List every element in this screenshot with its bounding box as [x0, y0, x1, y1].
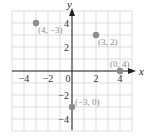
data-points: (4, −3)(3, 2)(0, 4)(−3, 0) [33, 20, 130, 110]
y-tick-label: −4 [58, 114, 69, 125]
x-tick-label: 2 [94, 73, 99, 84]
data-point: (0, 4) [110, 59, 130, 74]
point-label: (4, −3) [38, 25, 63, 35]
data-point: (3, 2) [93, 32, 118, 47]
point-label: (0, 4) [110, 59, 130, 69]
x-tick-label: 0 [66, 73, 71, 84]
x-axis-label: x [138, 65, 144, 77]
coordinate-plane: x y −4−202442−2−4 (4, −3)(3, 2)(0, 4)(−3… [0, 0, 148, 140]
point-label: (3, 2) [98, 37, 118, 47]
y-axis-label: y [66, 0, 72, 10]
y-tick-label: −2 [58, 90, 69, 101]
x-tick-label: 4 [118, 73, 123, 84]
data-point: (4, −3) [33, 20, 63, 35]
x-tick-label: −4 [19, 73, 30, 84]
y-tick-label: 2 [64, 42, 69, 53]
x-tick-label: −2 [43, 73, 54, 84]
y-tick-label: 4 [64, 18, 69, 29]
point-label: (−3, 0) [75, 97, 100, 107]
